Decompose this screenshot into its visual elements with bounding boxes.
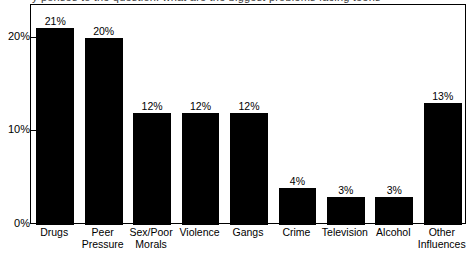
bar[interactable]: [182, 113, 220, 225]
category-label-line: Peer: [78, 226, 126, 238]
bar-value-label: 4%: [279, 175, 317, 187]
bar-group[interactable]: 20%: [85, 5, 123, 225]
x-axis-category-label: Television: [321, 226, 369, 238]
bar-value-label: 13%: [424, 90, 462, 102]
x-axis-category-label: Crime: [272, 226, 320, 238]
bars-layer: 21%20%12%12%12%4%3%3%13%: [31, 5, 467, 225]
bar-group[interactable]: 12%: [133, 5, 171, 225]
category-label-line: Influences: [418, 238, 466, 250]
bar-chart-figure: y ponses to the question: what are the b…: [0, 0, 472, 255]
y-axis-tick-label: 20%: [2, 31, 30, 42]
x-axis-category-label: Drugs: [30, 226, 78, 238]
x-axis-category-label: OtherInfluences: [418, 226, 466, 250]
category-label-line: Crime: [272, 226, 320, 238]
bar[interactable]: [36, 28, 74, 225]
bar-value-label: 3%: [375, 184, 413, 196]
category-label-line: Television: [321, 226, 369, 238]
bar[interactable]: [327, 197, 365, 225]
bar-group[interactable]: 3%: [375, 5, 413, 225]
y-axis-tick-label: 10%: [2, 124, 30, 135]
x-axis-category-label: PeerPressure: [78, 226, 126, 250]
category-label-line: Sex/Poor: [127, 226, 175, 238]
bar-value-label: 12%: [230, 100, 268, 112]
bar[interactable]: [279, 188, 317, 225]
bar-value-label: 21%: [36, 15, 74, 27]
chart-title-cutoff: y ponses to the question: what are the b…: [32, 0, 381, 3]
bar-group[interactable]: 4%: [279, 5, 317, 225]
category-label-line: Alcohol: [369, 226, 417, 238]
category-label-line: Drugs: [30, 226, 78, 238]
bar-group[interactable]: 21%: [36, 5, 74, 225]
bar-group[interactable]: 3%: [327, 5, 365, 225]
bar-group[interactable]: 12%: [182, 5, 220, 225]
y-axis-tick-label: 0%: [2, 218, 30, 229]
category-label-line: Other: [418, 226, 466, 238]
category-label-line: Gangs: [224, 226, 272, 238]
category-label-line: Pressure: [78, 238, 126, 250]
bar[interactable]: [85, 38, 123, 225]
y-axis-tick-labels: 0%10%20%: [0, 0, 30, 255]
bar[interactable]: [375, 197, 413, 225]
x-axis-category-label: Gangs: [224, 226, 272, 238]
x-axis-category-label: Alcohol: [369, 226, 417, 238]
bar-group[interactable]: 13%: [424, 5, 462, 225]
bar-value-label: 3%: [327, 184, 365, 196]
x-axis-category-label: Sex/PoorMorals: [127, 226, 175, 250]
category-label-line: Morals: [127, 238, 175, 250]
bar-value-label: 12%: [133, 100, 171, 112]
bar[interactable]: [133, 113, 171, 225]
bar[interactable]: [230, 113, 268, 225]
x-axis-category-label: Violence: [175, 226, 223, 238]
bar-value-label: 20%: [85, 25, 123, 37]
plot-area: 21%20%12%12%12%4%3%3%13%: [30, 4, 466, 224]
x-axis-category-labels: DrugsPeerPressureSex/PoorMoralsViolenceG…: [30, 226, 466, 255]
bar-group[interactable]: 12%: [230, 5, 268, 225]
bar[interactable]: [424, 103, 462, 225]
bar-value-label: 12%: [182, 100, 220, 112]
category-label-line: Violence: [175, 226, 223, 238]
